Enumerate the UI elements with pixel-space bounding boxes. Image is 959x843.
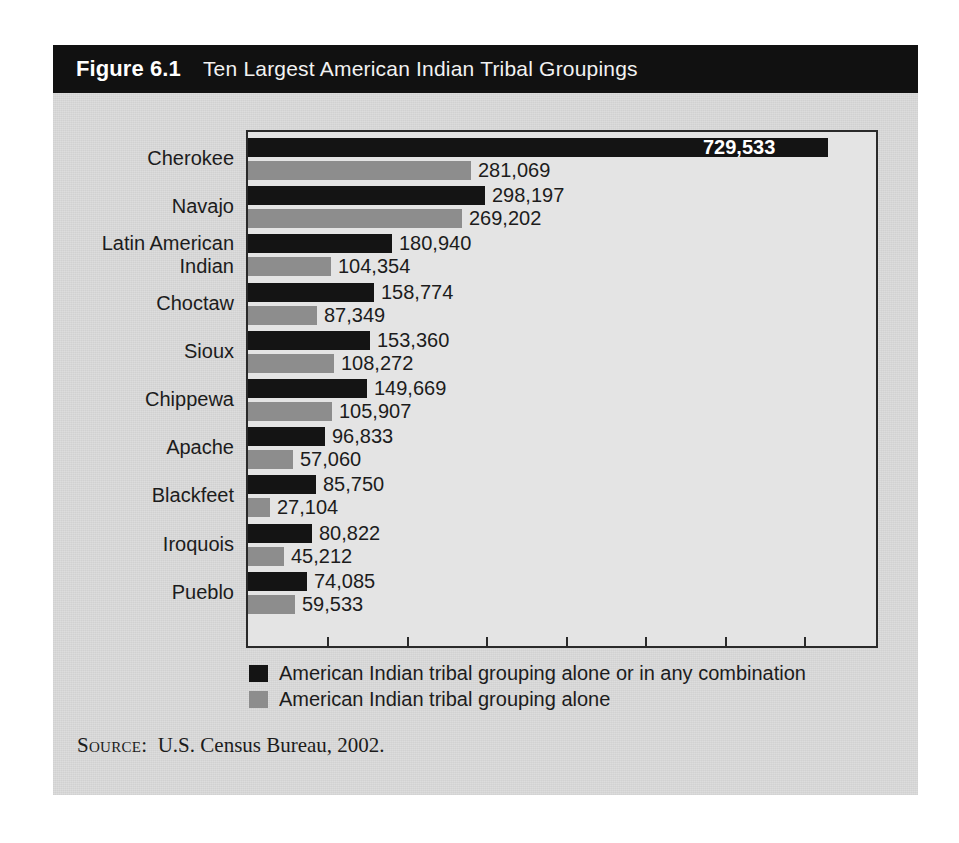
chart-row: 80,82245,212 bbox=[248, 522, 876, 572]
bar-alone bbox=[248, 354, 334, 373]
category-label: Chippewa bbox=[53, 388, 234, 411]
category-label: Cherokee bbox=[53, 147, 234, 170]
bar-value-label: 74,085 bbox=[314, 572, 375, 591]
bar-alone bbox=[248, 402, 332, 421]
figure-card: Figure 6.1 Ten Largest American Indian T… bbox=[53, 45, 918, 795]
axis-tick bbox=[725, 637, 727, 646]
bar-combination bbox=[248, 475, 316, 494]
bar-value-label: 85,750 bbox=[323, 475, 384, 494]
plot-area: 729,533281,069298,197269,202180,940104,3… bbox=[246, 130, 878, 648]
bar-value-label: 149,669 bbox=[374, 379, 446, 398]
bar-value-label: 57,060 bbox=[300, 450, 361, 469]
category-label: Iroquois bbox=[53, 533, 234, 556]
bar-value-label: 153,360 bbox=[377, 331, 449, 350]
category-label: Choctaw bbox=[53, 292, 234, 315]
bar-alone bbox=[248, 306, 317, 325]
bar-value-label: 27,104 bbox=[277, 498, 338, 517]
bar-value-label: 96,833 bbox=[332, 427, 393, 446]
bar-value-label: 105,907 bbox=[339, 402, 411, 421]
category-label: Blackfeet bbox=[53, 484, 234, 507]
bar-value-label: 45,212 bbox=[291, 547, 352, 566]
bar-combination bbox=[248, 524, 312, 543]
bar-value-label: 180,940 bbox=[399, 234, 471, 253]
axis-tick bbox=[407, 637, 409, 646]
figure-header: Figure 6.1 Ten Largest American Indian T… bbox=[53, 45, 918, 93]
bar-alone bbox=[248, 498, 270, 517]
bar-value-label: 87,349 bbox=[324, 306, 385, 325]
bar-combination bbox=[248, 234, 392, 253]
chart-row: 85,75027,104 bbox=[248, 473, 876, 523]
bar-combination bbox=[248, 283, 374, 302]
chart-row: 729,533281,069 bbox=[248, 136, 876, 186]
bar-combination bbox=[248, 379, 367, 398]
axis-tick bbox=[327, 637, 329, 646]
legend-swatch-combination bbox=[249, 665, 268, 682]
bar-combination bbox=[248, 572, 307, 591]
chart-row: 158,77487,349 bbox=[248, 281, 876, 331]
chart-row: 96,83357,060 bbox=[248, 425, 876, 475]
legend-item: American Indian tribal grouping alone or… bbox=[249, 660, 806, 686]
legend-label: American Indian tribal grouping alone or… bbox=[279, 662, 806, 685]
bar-value-label: 281,069 bbox=[478, 161, 550, 180]
bar-alone bbox=[248, 450, 293, 469]
source-note: Source: U.S. Census Bureau, 2002. bbox=[77, 733, 385, 758]
bar-combination bbox=[248, 186, 485, 205]
bar-value-label: 158,774 bbox=[381, 283, 453, 302]
bar-alone bbox=[248, 257, 331, 276]
chart-row: 74,08559,533 bbox=[248, 570, 876, 620]
chart-row: 149,669105,907 bbox=[248, 377, 876, 427]
chart-row: 298,197269,202 bbox=[248, 184, 876, 234]
chart-row: 180,940104,354 bbox=[248, 232, 876, 282]
axis-tick bbox=[645, 637, 647, 646]
source-text: U.S. Census Bureau, 2002. bbox=[158, 733, 385, 757]
category-label: Navajo bbox=[53, 195, 234, 218]
category-label: Latin AmericanIndian bbox=[53, 232, 234, 278]
legend-item: American Indian tribal grouping alone bbox=[249, 686, 806, 712]
figure-number: Figure 6.1 bbox=[76, 56, 181, 82]
bar-alone bbox=[248, 209, 462, 228]
source-label: Source: bbox=[77, 733, 147, 757]
bar-alone bbox=[248, 161, 471, 180]
bar-value-label: 59,533 bbox=[302, 595, 363, 614]
category-label: Pueblo bbox=[53, 581, 234, 604]
legend-swatch-alone bbox=[249, 691, 268, 708]
bar-value-label: 104,354 bbox=[338, 257, 410, 276]
bar-value-label: 80,822 bbox=[319, 524, 380, 543]
category-label: Sioux bbox=[53, 340, 234, 363]
bar-value-label: 298,197 bbox=[492, 186, 564, 205]
bar-combination bbox=[248, 331, 370, 350]
bar-value-label: 269,202 bbox=[469, 209, 541, 228]
chart-legend: American Indian tribal grouping alone or… bbox=[249, 660, 806, 712]
category-axis-labels: CherokeeNavajoLatin AmericanIndianChocta… bbox=[53, 130, 234, 648]
bar-value-label: 729,533 bbox=[703, 138, 775, 157]
figure-title: Ten Largest American Indian Tribal Group… bbox=[203, 57, 638, 81]
axis-tick bbox=[486, 637, 488, 646]
axis-tick bbox=[566, 637, 568, 646]
bar-value-label: 108,272 bbox=[341, 354, 413, 373]
bar-alone bbox=[248, 595, 295, 614]
chart-row: 153,360108,272 bbox=[248, 329, 876, 379]
plot-inner: 729,533281,069298,197269,202180,940104,3… bbox=[248, 132, 876, 646]
axis-tick bbox=[804, 637, 806, 646]
bar-alone bbox=[248, 547, 284, 566]
bar-combination bbox=[248, 427, 325, 446]
legend-label: American Indian tribal grouping alone bbox=[279, 688, 610, 711]
category-label: Apache bbox=[53, 436, 234, 459]
